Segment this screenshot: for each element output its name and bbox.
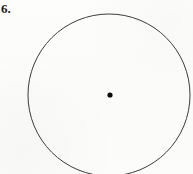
circle-diagram: [0, 0, 193, 174]
center-point-dot: [107, 92, 112, 97]
geometry-figure: 6.: [0, 0, 193, 174]
